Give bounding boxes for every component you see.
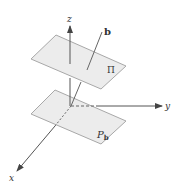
plane-pb-label-sub: b [104,133,109,142]
x-axis-label: x [9,173,14,183]
plane-pb [31,90,126,144]
z-axis-label: z [66,14,72,24]
diagram-canvas: z b Π y x Pb [0,0,177,187]
vector-b-label: b [104,26,111,37]
plane-pi-label: Π [107,65,115,75]
plane-pi [31,35,126,89]
x-axis [17,126,55,171]
y-axis-label: y [164,101,171,111]
